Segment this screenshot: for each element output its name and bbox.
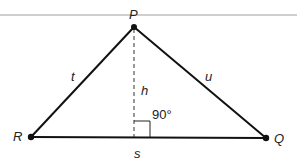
side-label-u: u [205,69,212,84]
side-label-s: s [134,146,141,161]
side-t [31,27,134,137]
vertex-p-dot [131,24,137,30]
triangle-diagram: P R Q t u s h 90° [0,0,297,163]
vertex-label-r: R [13,129,22,144]
vertex-r-dot [28,134,34,140]
side-s [31,137,266,138]
right-angle-marker [134,121,150,137]
vertex-label-q: Q [274,131,284,146]
altitude-label-h: h [141,83,148,98]
vertex-q-dot [263,135,269,141]
side-label-t: t [71,69,76,84]
vertex-label-p: P [129,7,138,22]
angle-label: 90° [152,107,172,122]
